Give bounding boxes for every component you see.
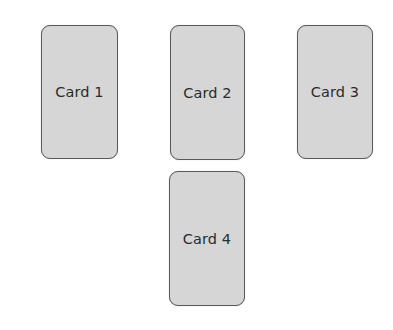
card-2[interactable]: Card 2 <box>170 25 245 160</box>
card-label: Card 2 <box>183 85 231 101</box>
card-label: Card 3 <box>311 84 359 100</box>
card-1[interactable]: Card 1 <box>41 25 118 159</box>
card-label: Card 1 <box>55 84 103 100</box>
card-label: Card 4 <box>183 231 231 247</box>
card-4[interactable]: Card 4 <box>169 171 245 306</box>
card-3[interactable]: Card 3 <box>297 25 373 159</box>
